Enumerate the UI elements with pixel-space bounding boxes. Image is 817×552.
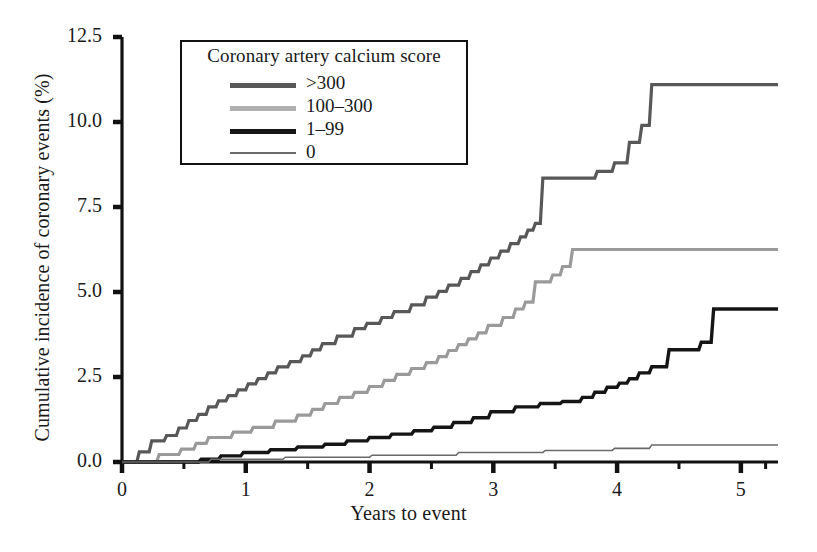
legend-item-2: 1–99 xyxy=(182,117,466,140)
legend-item-label: >300 xyxy=(306,73,345,92)
legend-line-swatch xyxy=(230,122,296,136)
figure-root: Cumulative incidence of coronary events … xyxy=(0,0,817,552)
legend-line-swatch xyxy=(230,99,296,113)
legend-item-0: >300 xyxy=(182,71,466,94)
legend-line-swatch xyxy=(230,145,296,159)
legend-line-swatch xyxy=(230,76,296,90)
legend-title: Coronary artery calcium score xyxy=(182,45,466,67)
legend-box: Coronary artery calcium score >300100–30… xyxy=(180,40,468,165)
series-line-100-300 xyxy=(122,250,778,463)
legend-item-1: 100–300 xyxy=(182,94,466,117)
legend-item-label: 0 xyxy=(306,142,316,161)
legend-item-label: 1–99 xyxy=(306,119,344,138)
legend-item-label: 100–300 xyxy=(306,96,373,115)
series-line-0 xyxy=(122,445,778,462)
legend-item-3: 0 xyxy=(182,140,466,163)
legend-items: >300100–3001–990 xyxy=(182,71,466,163)
